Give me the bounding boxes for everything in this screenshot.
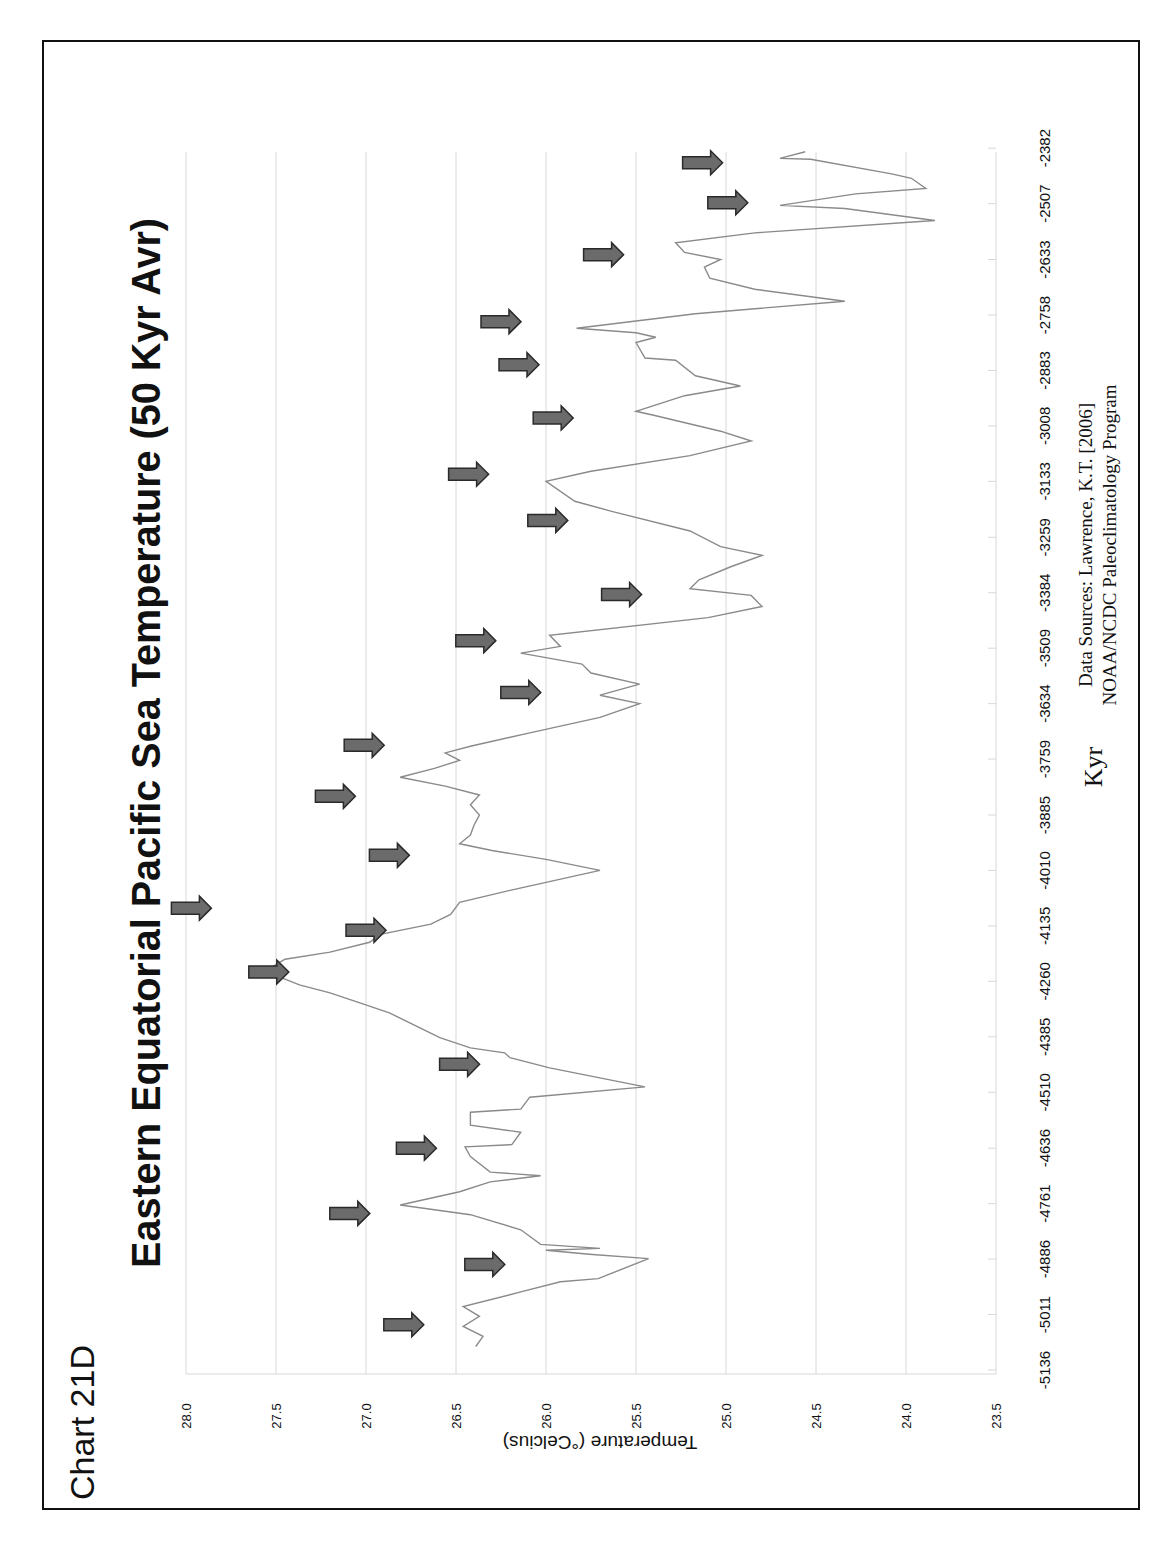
peak-arrow-icon [501,681,541,705]
temperature-axis-ticks: 28.027.527.026.526.025.525.024.524.023.5 [179,1403,1004,1428]
peak-arrow-icon [449,462,489,486]
peak-arrow-icon [171,896,211,920]
kyr-tick-label: -4135 [1036,907,1053,945]
kyr-tick-label: -4385 [1036,1018,1053,1056]
peak-arrow-icon [584,243,624,267]
chart-label: Chart 21D [63,1345,101,1500]
peak-arrow-icon [499,353,539,377]
chart-title: Eastern Equatorial Pacific Sea Temperatu… [123,218,169,1268]
kyr-tick-label: -4260 [1036,962,1053,1000]
peak-arrow-icon [249,960,289,984]
kyr-tick-label: -3133 [1036,462,1053,500]
kyr-tick-label: -4636 [1036,1129,1053,1167]
peak-arrow-icon [384,1313,424,1337]
peak-arrow-icon [315,784,355,808]
peak-arrow-icon [708,191,748,215]
temperature-tick-label: 28.0 [179,1403,194,1428]
kyr-tick-label: -3384 [1036,574,1053,612]
temperature-tick-label: 25.5 [629,1403,644,1428]
kyr-tick-label: -4761 [1036,1184,1053,1222]
kyr-tick-label: -3259 [1036,518,1053,556]
peak-arrow-icon [683,151,723,175]
peak-arrow-icon [396,1136,436,1160]
data-source-line-1: Data Sources: Lawrence, K.T. [2006] [1075,403,1096,687]
kyr-tick-label: -4510 [1036,1073,1053,1111]
peak-arrow-icon [330,1201,370,1225]
kyr-tick-label: -2382 [1036,129,1053,167]
kyr-tick-label: -2758 [1036,296,1053,334]
kyr-tick-label: -4886 [1036,1240,1053,1278]
kyr-axis-ticks: -5136-5011-4886-4761-4636-4510-4385-4260… [988,129,1053,1389]
peak-arrow-icon [528,508,568,532]
peak-arrow-icon [481,310,521,334]
temperature-tick-label: 26.5 [449,1403,464,1428]
temperature-line-chart: -5136-5011-4886-4761-4636-4510-4385-4260… [0,0,1176,1557]
kyr-tick-label: -2883 [1036,351,1053,389]
temperature-tick-label: 26.0 [539,1403,554,1428]
temperature-tick-label: 27.5 [269,1403,284,1428]
temperature-tick-label: 25.0 [719,1403,734,1428]
kyr-tick-label: -2633 [1036,240,1053,278]
peak-arrow-icon [533,406,573,430]
temperature-tick-label: 27.0 [359,1403,374,1428]
kyr-tick-label: -3509 [1036,629,1053,667]
peak-arrow-icon [456,629,496,653]
temperature-tick-label: 23.5 [989,1403,1004,1428]
y-axis-label: Temperature (°Celcius) [503,1432,698,1453]
peak-arrow-icon [369,843,409,867]
kyr-tick-label: -2507 [1036,184,1053,222]
kyr-tick-label: -4010 [1036,851,1053,889]
kyr-tick-label: -3634 [1036,684,1053,722]
peak-arrow-icon [440,1052,480,1076]
x-axis-label: Kyr [1079,746,1108,787]
gridlines [186,152,996,1374]
temperature-tick-label: 24.0 [899,1403,914,1428]
peak-arrow-icon [344,733,384,757]
peak-arrow-annotations [171,151,747,1337]
kyr-tick-label: -3885 [1036,796,1053,834]
kyr-tick-label: -3759 [1036,740,1053,778]
temperature-tick-label: 24.5 [809,1403,824,1428]
kyr-tick-label: -5136 [1036,1351,1053,1389]
data-source-line-2: NOAA/NCDC Paleoclimatology Program [1099,384,1120,705]
kyr-tick-label: -3008 [1036,407,1053,445]
kyr-tick-label: -5011 [1036,1296,1053,1333]
peak-arrow-icon [465,1252,505,1276]
